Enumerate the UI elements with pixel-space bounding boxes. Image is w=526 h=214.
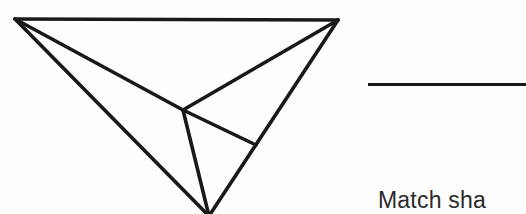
horizontal-rule — [368, 83, 526, 86]
caption-label: Match sha — [378, 186, 486, 214]
edge-top-right-to-interior — [183, 20, 338, 110]
screenshot-canvas: Match sha — [0, 0, 526, 214]
rule-row — [352, 78, 526, 92]
edge-interior-to-bottom — [183, 110, 209, 214]
caption-row: Match sha — [352, 186, 526, 214]
edge-top — [15, 19, 338, 20]
right-column: Match sha — [352, 0, 526, 214]
edge-left — [15, 19, 209, 214]
wireframe-polyhedron-figure — [0, 0, 352, 214]
edge-right — [209, 20, 338, 214]
edge-interior-to-right-mid — [183, 110, 256, 145]
figure-panel — [0, 0, 352, 214]
edge-top-left-to-interior — [15, 19, 183, 110]
